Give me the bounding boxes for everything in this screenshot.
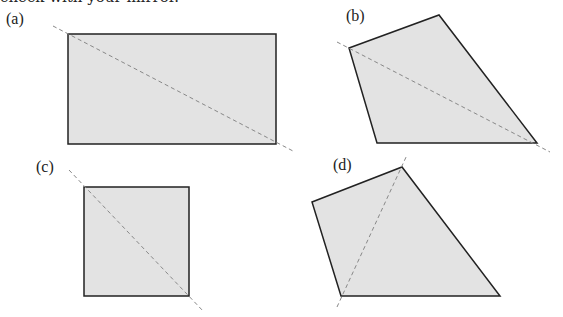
figure-c	[69, 170, 204, 312]
figures-canvas	[0, 0, 563, 317]
figure-a	[53, 26, 293, 151]
figure-b	[337, 15, 550, 152]
figure-d	[312, 155, 500, 307]
